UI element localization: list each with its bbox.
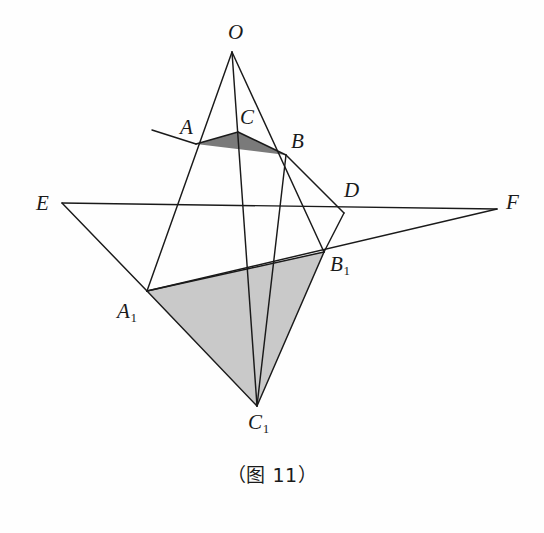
point-label-B1-letter: B [330, 252, 343, 276]
point-label-C1: C1 [248, 412, 269, 433]
point-label-C-letter: C [240, 105, 254, 129]
point-label-D-letter: D [344, 178, 359, 202]
point-label-B: B [291, 131, 304, 152]
point-label-B-letter: B [291, 129, 304, 153]
point-label-C1-subscript: 1 [263, 421, 270, 436]
line-B-to-D [286, 155, 344, 213]
point-label-D: D [344, 180, 359, 201]
point-label-O-letter: O [228, 20, 243, 44]
line-O-to-A1 [147, 52, 232, 291]
point-label-C1-letter: C [248, 410, 262, 434]
shaded-regions-layer [147, 132, 324, 406]
figure-container: OABCA1B1C1DEF （图 11） [0, 0, 544, 533]
point-label-F: F [506, 192, 519, 213]
point-label-E-letter: E [36, 191, 49, 215]
point-label-B1-subscript: 1 [344, 263, 351, 278]
segments-layer [62, 52, 497, 406]
point-label-B1: B1 [330, 254, 350, 275]
point-label-O: O [228, 22, 243, 43]
line-E-to-A1 [62, 203, 147, 291]
figure-caption: （图 11） [0, 460, 544, 487]
point-label-A: A [180, 117, 193, 138]
point-label-A-letter: A [180, 115, 193, 139]
geometry-diagram [0, 0, 544, 533]
triangle-ABC [196, 132, 286, 155]
point-label-A1-subscript: 1 [131, 310, 138, 325]
point-label-E: E [36, 193, 49, 214]
point-label-A1: A1 [117, 301, 137, 322]
point-label-C: C [240, 107, 254, 128]
point-label-F-letter: F [506, 190, 519, 214]
point-label-A1-letter: A [117, 299, 130, 323]
